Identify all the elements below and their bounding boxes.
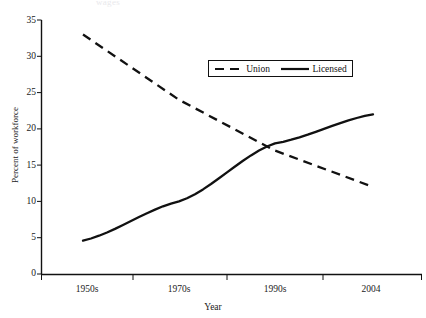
plot-area (0, 0, 426, 318)
legend-swatch-solid-icon (280, 65, 310, 73)
x-axis-ticks (42, 275, 422, 281)
legend: Union Licensed (208, 60, 353, 77)
legend-entry-union: Union (214, 64, 270, 74)
series-line-licensed (83, 114, 373, 240)
legend-entry-licensed: Licensed (280, 64, 346, 74)
legend-swatch-dashed-icon (214, 65, 244, 73)
legend-label-licensed: Licensed (312, 64, 346, 74)
chart-figure: wages 35 30 25 20 15 10 5 0 1950s 1970s … (0, 0, 426, 318)
series-line-union (83, 35, 373, 187)
legend-label-union: Union (246, 64, 270, 74)
